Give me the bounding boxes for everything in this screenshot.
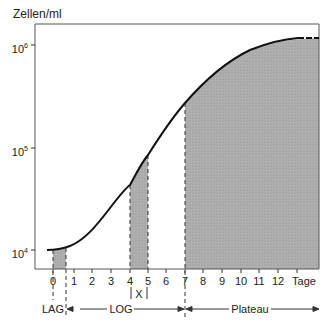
x-tick-label-0: 0 (50, 276, 56, 287)
x-tick-label-10: 10 (235, 276, 247, 287)
y-tick-exponent: 6 (24, 42, 28, 49)
phase-label-plateau: Plateau (231, 304, 268, 315)
x-interval-label: X (135, 289, 142, 300)
x-tick-label-8: 8 (200, 276, 206, 287)
y-ticks (31, 45, 35, 250)
shaded-x-interval (130, 155, 148, 269)
y-tick-label-1e6: 106 (2, 40, 28, 55)
x-axis-unit: Tage (292, 276, 316, 287)
x-tick-label-1: 1 (71, 276, 77, 287)
x-tick-label-2: 2 (89, 276, 95, 287)
phase-label-lag: LAG (42, 304, 64, 315)
x-tick-label-11: 11 (253, 276, 264, 287)
y-tick-exponent: 5 (24, 145, 28, 152)
y-tick-label-1e4: 104 (2, 245, 28, 260)
phase-label-log: LOG (109, 304, 132, 315)
x-tick-label-12: 12 (272, 276, 284, 287)
x-tick-label-7: 7 (182, 276, 188, 287)
y-tick-base: 10 (12, 248, 24, 260)
x-tick-label-5: 5 (145, 276, 151, 287)
y-tick-exponent: 4 (24, 247, 28, 254)
x-tick-label-9: 9 (219, 276, 225, 287)
shaded-plateau (185, 38, 319, 269)
x-tick-label-4: 4 (127, 276, 133, 287)
x-tick-label-3: 3 (108, 276, 114, 287)
x-tick-label-6: 6 (163, 276, 169, 287)
y-axis-title: Zellen/ml (13, 8, 62, 20)
y-tick-base: 10 (12, 43, 24, 55)
x-ticks (53, 269, 297, 273)
shaded-regions (53, 38, 319, 269)
y-tick-base: 10 (12, 146, 24, 158)
phase-arrows (67, 307, 319, 312)
shaded-lag (53, 248, 66, 269)
y-tick-label-1e5: 105 (2, 143, 28, 158)
